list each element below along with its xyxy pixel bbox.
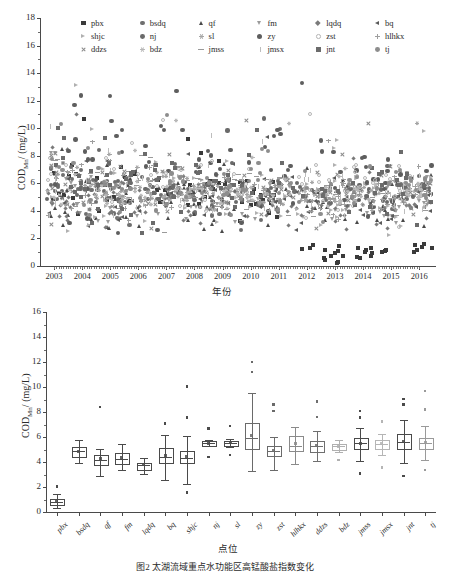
scatter-point-hlhkx xyxy=(79,163,84,168)
scatter-point-bq xyxy=(365,195,369,199)
scatter-point-jmss xyxy=(117,208,122,209)
scatter-point-nj xyxy=(60,189,64,193)
scatter-point-bdz xyxy=(73,172,77,176)
scatter-x-minor-tick xyxy=(323,267,324,269)
legend-marker-hlhkx xyxy=(372,31,383,41)
scatter-point-ddzs xyxy=(60,196,65,201)
scatter-point-bdz xyxy=(100,184,104,188)
scatter-point-qf xyxy=(113,197,117,201)
scatter-x-tick-label: 2004 xyxy=(67,271,97,281)
scatter-point-ddzs xyxy=(411,212,416,217)
scatter-point-sl xyxy=(150,196,154,200)
scatter-point-bq xyxy=(396,194,400,198)
scatter-point-zy xyxy=(176,188,180,192)
scatter-point-tj xyxy=(241,187,245,191)
scatter-point-bdz xyxy=(229,195,233,199)
scatter-point-jmss xyxy=(264,195,269,196)
scatter-point-lqdq xyxy=(65,147,69,151)
scatter-point-zy xyxy=(240,180,244,184)
scatter-point-bsdq xyxy=(244,187,248,191)
scatter-x-minor-tick xyxy=(333,267,334,269)
scatter-point-sl xyxy=(265,193,269,197)
scatter-point-bdz xyxy=(139,194,143,198)
legend-marker-glyph xyxy=(375,47,380,52)
scatter-point-ddzs xyxy=(204,190,209,195)
scatter-x-minor-tick xyxy=(253,267,254,269)
scatter-point-bdz xyxy=(416,181,420,185)
scatter-point-bsdq xyxy=(276,210,280,214)
scatter-x-minor-tick xyxy=(419,267,420,269)
scatter-x-minor-tick xyxy=(77,267,78,269)
boxplot-x-tick-shjc xyxy=(187,513,188,516)
scatter-point-lqdq xyxy=(67,195,71,199)
scatter-point-fm xyxy=(253,217,257,221)
scatter-point-hlhkx xyxy=(278,202,283,207)
scatter-point-jmss xyxy=(162,232,167,233)
scatter-point-ddzs xyxy=(118,165,123,170)
scatter-point-jmsx xyxy=(136,205,137,210)
scatter-x-minor-tick xyxy=(101,267,102,269)
scatter-point-ddzs xyxy=(284,176,289,181)
legend-item-lqdq: lqdq xyxy=(313,16,341,28)
scatter-point-pbx xyxy=(133,172,137,176)
scatter-x-minor-tick xyxy=(152,267,153,269)
legend-marker-glyph xyxy=(316,34,321,39)
scatter-point-zst xyxy=(373,178,377,182)
scatter-point-zy xyxy=(366,214,370,218)
scatter-point-bdz xyxy=(412,190,416,194)
scatter-point-hlhkx xyxy=(148,196,153,201)
scatter-point-ddzs xyxy=(54,170,59,175)
scatter-point-jnt xyxy=(79,195,83,199)
scatter-point-jmsx xyxy=(403,185,404,190)
scatter-point-bq xyxy=(288,194,292,198)
scatter-point-hlhkx xyxy=(273,185,278,190)
scatter-point-jnt xyxy=(212,179,216,183)
scatter-x-minor-tick xyxy=(393,267,394,269)
scatter-point-jmsx xyxy=(311,202,312,207)
scatter-point-bsdq xyxy=(345,189,349,193)
scatter-point-bq xyxy=(133,169,137,173)
scatter-x-minor-tick xyxy=(276,267,277,269)
scatter-point-jmss xyxy=(106,198,111,199)
scatter-point-bsdq xyxy=(69,165,73,169)
scatter-point-tj xyxy=(407,183,411,187)
scatter-point-jmsx xyxy=(220,189,221,194)
scatter-point-nj xyxy=(150,185,154,189)
scatter-point-nj xyxy=(104,191,108,195)
scatter-point-qf xyxy=(70,184,74,188)
scatter-point-zst xyxy=(178,204,182,208)
scatter-point-hlhkx xyxy=(105,192,110,197)
scatter-point-shjc xyxy=(192,176,196,180)
scatter-point-pbx xyxy=(217,181,221,185)
scatter-point-zst xyxy=(352,165,356,169)
scatter-point-jmss xyxy=(121,196,126,197)
scatter-point-nj xyxy=(395,195,399,199)
scatter-point-shjc xyxy=(394,215,398,219)
scatter-x-minor-tick xyxy=(375,267,376,269)
scatter-point-jmsx xyxy=(374,184,375,189)
scatter-point-sl xyxy=(75,166,79,170)
scatter-point-nj xyxy=(310,188,314,192)
scatter-point-lqdq xyxy=(227,211,231,215)
scatter-point-bdz xyxy=(114,184,118,188)
scatter-point-lqdq xyxy=(207,207,211,211)
scatter-point-qf xyxy=(222,162,226,166)
scatter-point-jnt xyxy=(233,205,237,209)
scatter-point-sl xyxy=(56,173,60,177)
scatter-point-zst xyxy=(338,199,342,203)
scatter-point-lqdq xyxy=(65,219,69,223)
scatter-point-sl xyxy=(188,189,192,193)
scatter-point-zst xyxy=(393,179,397,183)
scatter-x-minor-tick xyxy=(94,267,95,269)
scatter-point-qf xyxy=(58,193,62,197)
scatter-point-bsdq xyxy=(170,186,174,190)
scatter-point-shjc xyxy=(93,215,97,219)
scatter-point-lqdq xyxy=(45,188,49,192)
scatter-point-jmss xyxy=(195,178,200,179)
scatter-x-minor-tick xyxy=(349,267,350,269)
legend-item-bdz: bdz xyxy=(137,42,162,54)
boxplot-x-tick-bsdq xyxy=(79,513,80,516)
scatter-x-minor-tick xyxy=(283,267,284,269)
scatter-point-pbx xyxy=(238,180,242,184)
scatter-point-shjc xyxy=(130,186,134,190)
